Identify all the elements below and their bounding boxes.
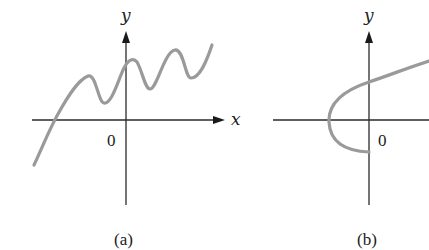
panel-b-y-label: y [363,5,374,25]
panel-a-y-label: y [120,5,131,25]
panel-b-origin-label: 0 [378,131,387,150]
panel-b-caption: (b) [357,230,377,249]
panel-a-curve [34,45,212,165]
panel-a-x-arrow-icon [213,116,225,124]
panel-a-x-label: x [231,109,241,129]
panel-a: y x 0 (a) [32,5,241,249]
panel-a-y-arrow-icon [122,31,130,43]
panel-b-y-arrow-icon [365,31,373,43]
panel-a-origin-label: 0 [107,131,116,150]
panel-b: y 0 (b) [273,5,429,249]
panel-a-caption: (a) [114,230,133,249]
figure: y x 0 (a) y 0 (b) [0,0,429,250]
